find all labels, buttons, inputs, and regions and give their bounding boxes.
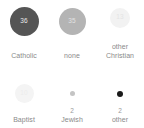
category-label-other: other	[112, 116, 128, 125]
bubble-cell-catholic[interactable]: 36 Catholic	[0, 0, 48, 64]
bubble-slot	[48, 81, 96, 107]
category-label-jewish: Jewish	[61, 116, 83, 125]
bubble-catholic[interactable]: 36	[10, 7, 39, 36]
bubble-slot: 36	[0, 1, 48, 43]
bubble-slot	[96, 81, 144, 107]
category-label-catholic: Catholic	[11, 52, 37, 61]
bubble-cell-baptist[interactable]: 10 Baptist	[0, 64, 48, 128]
bubble-slot: 13	[96, 0, 144, 35]
bubble-cell-jewish[interactable]: 2 Jewish	[48, 64, 96, 128]
bubble-value-catholic: 36	[20, 18, 27, 25]
bubble-other[interactable]	[117, 91, 123, 97]
bubble-value-none: 35	[68, 18, 75, 25]
category-label-other-christian: other Christian	[106, 43, 134, 60]
bubble-cell-other-christian[interactable]: 13 other Christian	[96, 0, 144, 64]
bubble-cell-other[interactable]: 2 other	[96, 64, 144, 128]
bubble-value-other-christian: 13	[116, 14, 123, 21]
bubble-jewish[interactable]	[70, 91, 75, 96]
bubble-none[interactable]: 35	[59, 8, 86, 35]
bubble-value-baptist: 10	[20, 90, 27, 97]
bubble-slot: 10	[0, 81, 48, 107]
bubble-other-christian[interactable]: 13	[110, 8, 130, 28]
outside-value-jewish: 2	[70, 108, 74, 116]
bubble-baptist[interactable]: 10	[15, 84, 34, 103]
outside-value-other: 2	[118, 108, 122, 116]
bubble-chart: 36 Catholic 35 none 13 other Christian 1…	[0, 0, 144, 128]
bubble-cell-none[interactable]: 35 none	[48, 0, 96, 64]
category-label-none: none	[64, 52, 80, 61]
category-label-baptist: Baptist	[13, 116, 35, 125]
bubble-slot: 35	[48, 1, 96, 43]
